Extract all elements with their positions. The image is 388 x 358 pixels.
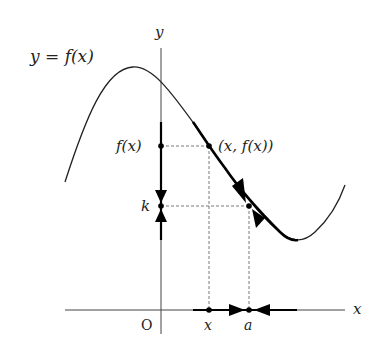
a-tick-label: a <box>244 317 252 333</box>
k-label: k <box>141 197 150 215</box>
arrow-right-icon <box>229 304 245 316</box>
curve-label: y = f(x) <box>29 46 94 66</box>
point-x-fx <box>206 143 212 149</box>
arrow-up-icon <box>155 209 167 222</box>
curve-f <box>65 67 345 240</box>
x-tick-label: x <box>204 317 212 333</box>
arrow-left-icon <box>254 304 270 316</box>
fixed-point-diagram: y = f(x) y x O (x, f(x)) f(x) k x a <box>0 0 388 358</box>
arrow-down-icon <box>155 190 167 203</box>
point-x <box>206 307 212 313</box>
origin-label: O <box>141 317 152 333</box>
x-axis-label: x <box>353 300 362 318</box>
point-a <box>246 307 252 313</box>
point-fx <box>158 143 164 149</box>
point-k <box>158 203 164 209</box>
point-fixed <box>246 203 252 209</box>
point-label: (x, f(x)) <box>218 137 274 155</box>
y-axis-label: y <box>154 23 164 41</box>
dashed-guides <box>161 146 249 310</box>
fx-label: f(x) <box>115 137 142 155</box>
